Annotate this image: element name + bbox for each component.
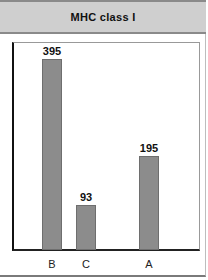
x-tick-label: C	[76, 258, 96, 270]
chart-header: MHC class I	[0, 0, 206, 34]
bar-B	[42, 59, 62, 250]
bar-value-label: 93	[71, 191, 101, 203]
plot-area	[12, 42, 200, 251]
bar-C	[76, 205, 96, 250]
bar-value-label: 395	[37, 45, 67, 57]
bar-value-label: 195	[134, 142, 164, 154]
chart-title: MHC class I	[70, 11, 135, 23]
x-tick-label: A	[139, 258, 159, 270]
x-tick-label: B	[42, 258, 62, 270]
bar-A	[139, 156, 159, 250]
